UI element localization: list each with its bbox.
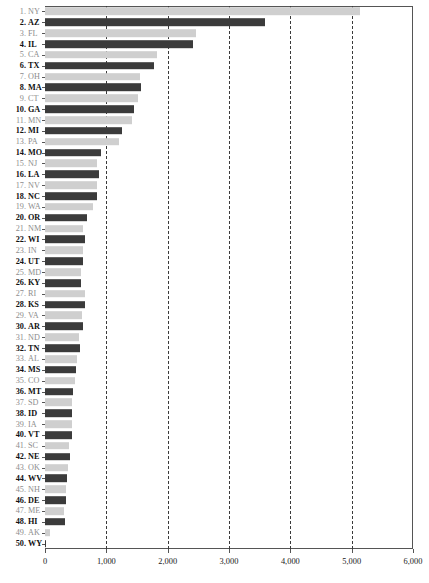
- bar: [45, 301, 85, 309]
- row-rank: 3.: [0, 29, 26, 38]
- row-rank: 25.: [0, 268, 26, 277]
- bar-row: 15.NJ: [0, 158, 429, 169]
- row-label: WI: [28, 235, 41, 244]
- bar-row: 11.MN: [0, 115, 429, 126]
- row-label: WY: [28, 539, 41, 548]
- bar-row: 12.MI: [0, 125, 429, 136]
- row-label: MA: [28, 83, 41, 92]
- bar-row: 39.IA: [0, 419, 429, 430]
- bar: [45, 73, 140, 81]
- bar-row: 32.TN: [0, 343, 429, 354]
- bar: [45, 453, 70, 461]
- bar: [45, 323, 83, 331]
- bar-row: 19.WA: [0, 201, 429, 212]
- row-label: TN: [28, 344, 41, 353]
- bar: [45, 290, 85, 298]
- bar-row: 17.NV: [0, 180, 429, 191]
- bar-row: 31.ND: [0, 332, 429, 343]
- row-label: LA: [28, 170, 41, 179]
- row-rank: 17.: [0, 181, 26, 190]
- bar: [45, 464, 68, 472]
- bar: [45, 214, 87, 222]
- row-rank: 6.: [0, 61, 26, 70]
- bar: [45, 225, 83, 233]
- bar-row: 18.NC: [0, 191, 429, 202]
- bar: [45, 388, 73, 396]
- row-label: CT: [28, 94, 41, 103]
- x-tick: [352, 549, 353, 553]
- row-label: AZ: [28, 18, 41, 27]
- row-rank: 22.: [0, 235, 26, 244]
- bar-row: 35.CO: [0, 375, 429, 386]
- bar-row: 14.MO: [0, 147, 429, 158]
- bar-rows: 1.NY2.AZ3.FL4.IL5.CA6.TX7.OH8.MA9.CT10.G…: [0, 6, 429, 549]
- row-label: NY: [28, 7, 41, 16]
- row-rank: 24.: [0, 257, 26, 266]
- bar-row: 41.SC: [0, 440, 429, 451]
- x-tick: [413, 549, 414, 553]
- x-tick-label: 6,000: [404, 556, 423, 567]
- row-rank: 50.: [0, 539, 26, 548]
- row-rank: 41.: [0, 441, 26, 450]
- row-label: DE: [28, 496, 41, 505]
- bar: [45, 257, 83, 265]
- row-rank: 9.: [0, 94, 26, 103]
- row-rank: 10.: [0, 105, 26, 114]
- bar: [45, 344, 80, 352]
- bar: [45, 18, 265, 26]
- row-label: PA: [28, 137, 41, 146]
- bar: [45, 442, 69, 450]
- bar-row: 29.VA: [0, 310, 429, 321]
- row-rank: 4.: [0, 40, 26, 49]
- row-rank: 5.: [0, 50, 26, 59]
- row-rank: 11.: [0, 116, 26, 125]
- row-rank: 18.: [0, 192, 26, 201]
- row-rank: 49.: [0, 528, 26, 537]
- row-label: AR: [28, 322, 41, 331]
- row-rank: 13.: [0, 137, 26, 146]
- bar-row: 9.CT: [0, 93, 429, 104]
- bar-row: 1.NY: [0, 6, 429, 17]
- row-label: ME: [28, 506, 41, 515]
- row-rank: 40.: [0, 430, 26, 439]
- bar: [45, 377, 75, 385]
- row-label: MD: [28, 268, 41, 277]
- row-rank: 29.: [0, 311, 26, 320]
- row-label: OH: [28, 72, 41, 81]
- bar-row: 6.TX: [0, 60, 429, 71]
- bar: [45, 366, 76, 374]
- row-label: MO: [28, 148, 41, 157]
- bar: [45, 485, 66, 493]
- bar: [45, 95, 138, 103]
- bar: [45, 496, 66, 504]
- row-rank: 1.: [0, 7, 26, 16]
- bar-row: 16.LA: [0, 169, 429, 180]
- bar-row: 23.IN: [0, 245, 429, 256]
- x-tick-label: 0: [43, 556, 47, 567]
- row-rank: 15.: [0, 159, 26, 168]
- bar: [45, 247, 83, 255]
- bar-row: 2.AZ: [0, 17, 429, 28]
- row-label: NV: [28, 181, 41, 190]
- row-label: NC: [28, 192, 41, 201]
- bar: [45, 268, 81, 276]
- row-label: CO: [28, 376, 41, 385]
- row-label: CA: [28, 50, 41, 59]
- row-label: KS: [28, 300, 41, 309]
- bar: [45, 475, 67, 483]
- bar: [45, 333, 79, 341]
- row-label: WV: [28, 474, 41, 483]
- x-tick-label: 1,000: [97, 556, 116, 567]
- bar: [45, 355, 77, 363]
- x-tick-label: 2,000: [158, 556, 177, 567]
- bar-row: 37.SD: [0, 397, 429, 408]
- bar: [45, 127, 122, 135]
- row-rank: 31.: [0, 333, 26, 342]
- row-label: TX: [28, 61, 41, 70]
- row-rank: 42.: [0, 452, 26, 461]
- bar-row: 25.MD: [0, 267, 429, 278]
- bar: [45, 409, 72, 417]
- row-label: GA: [28, 105, 41, 114]
- x-tick: [106, 549, 107, 553]
- row-label: NE: [28, 452, 41, 461]
